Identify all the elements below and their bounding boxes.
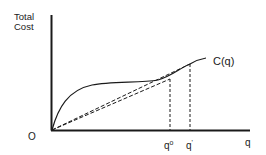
total-cost-diagram: Total Cost C(q) O qo q' q xyxy=(0,0,266,155)
q1-sup: ' xyxy=(192,139,193,146)
ray-to-q0 xyxy=(52,79,170,130)
diagram-canvas xyxy=(0,0,266,155)
q0-sup: o xyxy=(170,139,174,146)
y-axis-label: Total Cost xyxy=(14,12,34,32)
q0-tick-label: qo xyxy=(164,137,173,151)
curve-label: C(q) xyxy=(213,56,234,67)
ray-to-q1 xyxy=(52,64,190,130)
origin-label: O xyxy=(28,131,36,142)
q1-tick-label: q' xyxy=(186,137,193,151)
x-axis-label: q xyxy=(245,137,251,148)
y-axis-label-line2: Cost xyxy=(14,22,34,32)
